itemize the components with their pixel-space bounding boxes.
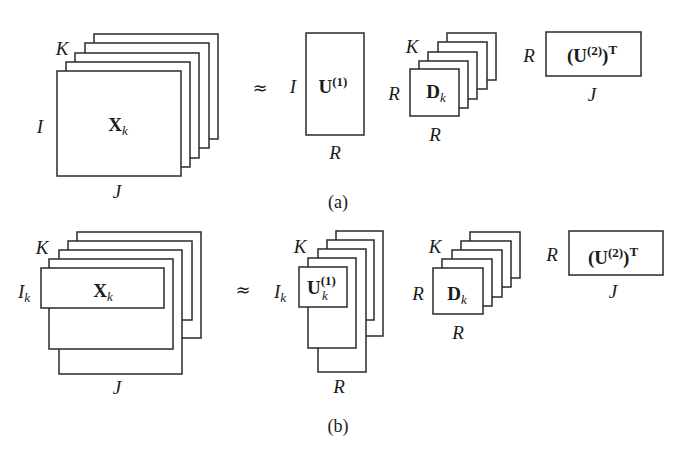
d-col-label: R [451, 322, 464, 343]
u2t-row-label: R [522, 45, 535, 66]
d-stack [433, 232, 520, 314]
approx-sign: ≈ [235, 279, 250, 300]
d-symbol-base: D [447, 283, 461, 304]
d-stack-label: K [428, 236, 443, 257]
u1-row-label: Ik [273, 281, 286, 305]
d-symbol-base: D [426, 81, 440, 102]
panel-b: K Ik J Xk ≈ K Ik R U(1) k K R R Dk [17, 231, 663, 437]
tensor-symbol-base: X [93, 280, 107, 301]
u1-col-label: R [328, 142, 341, 163]
u1-symbol-superscript: (1) [321, 273, 336, 288]
tensor-stack-label: K [55, 38, 70, 59]
tensor-stack-label: K [35, 237, 50, 258]
u1-symbol-superscript: (1) [332, 74, 347, 89]
d-stack-label: K [405, 36, 420, 57]
tensor-symbol-base: X [108, 114, 122, 135]
u1-col-label: R [332, 376, 345, 397]
tensor-symbol-subscript: k [107, 289, 113, 304]
u1-stack [299, 231, 383, 372]
panel-a-caption: (a) [328, 192, 348, 213]
tensor-x-stack [57, 34, 218, 176]
d-stack [410, 33, 496, 116]
tensor-x-stack [41, 232, 201, 374]
u2t-transpose: T [629, 244, 638, 259]
panel-a: K I J Xk ≈ I R U(1) K R R Dk R J (U(2))T… [36, 32, 641, 213]
u2t-col-label: J [609, 281, 619, 302]
d-row-label: R [411, 283, 424, 304]
panel-b-caption: (b) [328, 416, 349, 437]
tensor-symbol-subscript: k [122, 123, 128, 138]
u1-symbol-base: U [319, 76, 333, 97]
d-row-label: R [387, 83, 400, 104]
approx-sign: ≈ [252, 77, 267, 98]
u1-symbol-subscript: k [322, 288, 328, 303]
u2t-row-label: R [545, 244, 558, 265]
tensor-row-label: Ik [17, 281, 30, 305]
tensor-row-label: I [36, 116, 45, 137]
diagram-canvas: K I J Xk ≈ I R U(1) K R R Dk R J (U(2))T… [0, 0, 695, 451]
u2t-symbol-base: U [573, 45, 587, 66]
u2t-col-label: J [588, 84, 598, 105]
u2t-symbol-superscript: (2) [608, 245, 623, 260]
d-symbol-subscript: k [461, 292, 467, 307]
tensor-row-label-subscript: k [24, 290, 30, 305]
u1-stack-label: K [293, 236, 308, 257]
d-symbol-subscript: k [440, 90, 446, 105]
u2t-symbol-superscript: (2) [587, 43, 602, 58]
u1-row-label: I [289, 76, 298, 97]
tensor-col-label: J [113, 181, 123, 202]
u2t-transpose: T [608, 42, 617, 57]
u1-symbol-base: U [307, 277, 321, 298]
u1-row-label-subscript: k [280, 290, 286, 305]
tensor-col-label: J [113, 377, 123, 398]
u2t-symbol-base: U [594, 247, 608, 268]
d-col-label: R [428, 124, 441, 145]
